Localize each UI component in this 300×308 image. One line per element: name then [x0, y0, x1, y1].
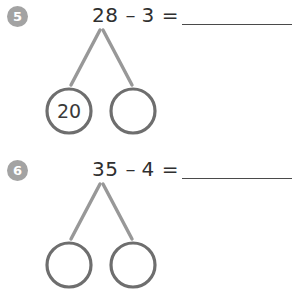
number-bond-diagram: 20: [0, 0, 300, 154]
problem-item: 6 35 – 4 =: [0, 154, 300, 308]
bond-branch-right: [103, 30, 132, 85]
bond-circle-right[interactable]: [111, 243, 155, 287]
number-bond-diagram: [0, 154, 300, 308]
worksheet: 5 28 – 3 = 20 6 35 – 4 =: [0, 0, 300, 308]
bond-branch-left: [71, 30, 100, 85]
bond-circle-right[interactable]: [111, 89, 155, 133]
bond-branch-right: [103, 184, 132, 239]
bond-circle-left-value: 20: [57, 100, 81, 122]
problem-item: 5 28 – 3 = 20: [0, 0, 300, 154]
bond-circle-left[interactable]: [47, 243, 91, 287]
bond-branch-left: [71, 184, 100, 239]
